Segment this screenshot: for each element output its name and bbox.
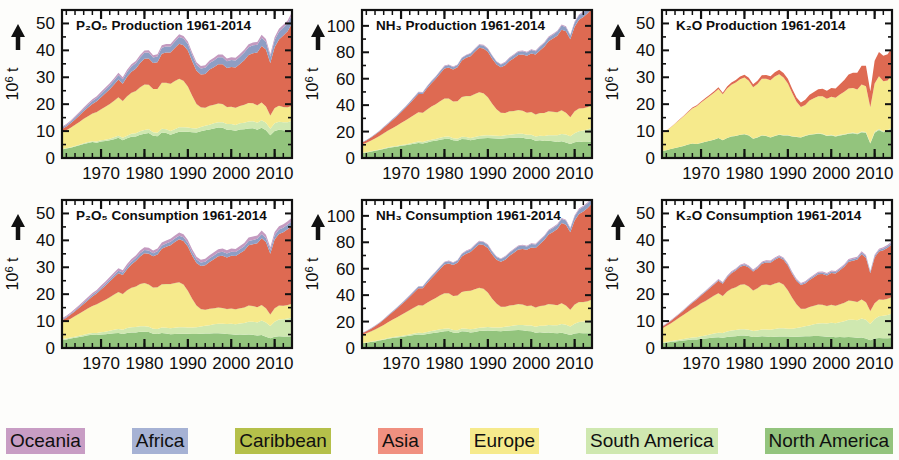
legend-item-north-america: North America — [765, 428, 893, 454]
legend-item-oceania: Oceania — [6, 428, 85, 454]
y-tick-label: 30 — [36, 258, 55, 277]
y-axis-arrow-icon — [11, 24, 25, 50]
y-tick-label: 0 — [346, 149, 355, 168]
y-tick-label: 60 — [336, 260, 355, 279]
chart-p2o5-production: 0102030405019701980199020002010P₂O₅ Prod… — [0, 0, 300, 190]
figure-container: 0102030405019701980199020002010P₂O₅ Prod… — [0, 0, 899, 460]
y-tick-label: 0 — [46, 149, 55, 168]
chart-title: P₂O₅ Consumption 1961-2014 — [76, 208, 267, 223]
y-tick-label: 40 — [336, 96, 355, 115]
chart-k2o-consumption: 0102030405019701980199020002010K₂O Consu… — [600, 190, 899, 380]
y-axis-label: 106 t — [303, 67, 321, 100]
chart-title: NH₃ Consumption 1961-2014 — [376, 208, 561, 223]
legend-item-asia: Asia — [378, 428, 423, 454]
y-tick-label: 20 — [36, 95, 55, 114]
y-tick-label: 10 — [636, 312, 655, 331]
y-tick-label: 40 — [336, 286, 355, 305]
x-tick-label: 1990 — [469, 354, 507, 373]
y-tick-label: 30 — [36, 68, 55, 87]
y-tick-label: 40 — [36, 231, 55, 250]
y-axis-label: 106 t — [3, 257, 21, 290]
panel-p2o5-consumption: 0102030405019701980199020002010P₂O₅ Cons… — [0, 190, 300, 380]
y-tick-label: 40 — [636, 41, 655, 60]
chart-p2o5-consumption: 0102030405019701980199020002010P₂O₅ Cons… — [0, 190, 300, 380]
y-tick-label: 30 — [636, 258, 655, 277]
y-axis-label: 106 t — [603, 67, 621, 100]
panel-k2o-production: 0102030405019701980199020002010K₂O Produ… — [600, 0, 899, 190]
y-axis-arrow-icon — [11, 214, 25, 240]
legend-item-south-america: South America — [586, 428, 718, 454]
y-tick-label: 0 — [646, 149, 655, 168]
y-tick-label: 20 — [636, 95, 655, 114]
x-axis-label: Year — [760, 378, 795, 380]
y-axis-arrow-icon — [611, 24, 625, 50]
y-tick-label: 100 — [327, 17, 355, 36]
y-axis-label: 106 t — [3, 67, 21, 100]
y-tick-label: 50 — [636, 14, 655, 33]
x-tick-label: 2000 — [812, 164, 850, 183]
y-tick-label: 10 — [36, 122, 55, 141]
x-tick-label: 2000 — [212, 354, 250, 373]
chart-k2o-production: 0102030405019701980199020002010K₂O Produ… — [600, 0, 899, 190]
y-axis-arrow-icon — [611, 214, 625, 240]
chart-title: P₂O₅ Production 1961-2014 — [76, 18, 251, 33]
y-tick-label: 0 — [46, 339, 55, 358]
x-tick-label: 2010 — [856, 354, 894, 373]
x-tick-label: 2000 — [212, 164, 250, 183]
x-axis-label: Year — [160, 378, 195, 380]
y-tick-label: 100 — [327, 207, 355, 226]
panel-nh3-production: 02040608010019701980199020002010NH₃ Prod… — [300, 0, 600, 190]
x-tick-label: 1980 — [726, 354, 764, 373]
chart-title: K₂O Consumption 1961-2014 — [676, 208, 862, 223]
legend-item-europe: Europe — [470, 428, 539, 454]
x-tick-label: 1970 — [682, 164, 720, 183]
chart-title: NH₃ Production 1961-2014 — [376, 18, 546, 33]
x-axis-label: Year — [460, 378, 495, 380]
x-tick-label: 2010 — [256, 354, 294, 373]
x-tick-label: 1970 — [682, 354, 720, 373]
x-tick-label: 1970 — [82, 354, 120, 373]
x-tick-label: 1970 — [382, 354, 420, 373]
y-tick-label: 50 — [36, 204, 55, 223]
x-tick-label: 1990 — [169, 354, 207, 373]
legend-item-africa: Africa — [132, 428, 189, 454]
legend: OceaniaAfricaCaribbeanAsiaEuropeSouth Am… — [0, 424, 899, 458]
y-tick-label: 10 — [36, 312, 55, 331]
legend-item-caribbean: Caribbean — [235, 428, 331, 454]
y-axis-arrow-icon — [311, 24, 325, 50]
chart-title: K₂O Production 1961-2014 — [676, 18, 846, 33]
x-tick-label: 2010 — [556, 164, 594, 183]
y-tick-label: 20 — [636, 285, 655, 304]
x-tick-label: 2000 — [512, 164, 550, 183]
y-tick-label: 20 — [336, 123, 355, 142]
y-tick-label: 0 — [646, 339, 655, 358]
x-tick-label: 1990 — [769, 164, 807, 183]
x-tick-label: 1990 — [769, 354, 807, 373]
x-tick-label: 2010 — [556, 354, 594, 373]
chart-nh3-production: 02040608010019701980199020002010NH₃ Prod… — [300, 0, 600, 190]
x-tick-label: 1990 — [469, 164, 507, 183]
y-tick-label: 50 — [36, 14, 55, 33]
x-tick-label: 1980 — [126, 354, 164, 373]
x-tick-label: 1980 — [726, 164, 764, 183]
chart-nh3-consumption: 02040608010019701980199020002010NH₃ Cons… — [300, 190, 600, 380]
y-tick-label: 20 — [336, 313, 355, 332]
x-tick-label: 1970 — [82, 164, 120, 183]
y-tick-label: 40 — [36, 41, 55, 60]
y-axis-arrow-icon — [311, 214, 325, 240]
panel-p2o5-production: 0102030405019701980199020002010P₂O₅ Prod… — [0, 0, 300, 190]
x-tick-label: 2000 — [812, 354, 850, 373]
x-tick-label: 1970 — [382, 164, 420, 183]
x-tick-label: 2010 — [256, 164, 294, 183]
y-tick-label: 20 — [36, 285, 55, 304]
x-tick-label: 2000 — [512, 354, 550, 373]
x-tick-label: 2010 — [856, 164, 894, 183]
x-tick-label: 1990 — [169, 164, 207, 183]
x-tick-label: 1980 — [426, 164, 464, 183]
panel-nh3-consumption: 02040608010019701980199020002010NH₃ Cons… — [300, 190, 600, 380]
panel-k2o-consumption: 0102030405019701980199020002010K₂O Consu… — [600, 190, 899, 380]
y-axis-label: 106 t — [603, 257, 621, 290]
x-tick-label: 1980 — [426, 354, 464, 373]
y-axis-label: 106 t — [303, 257, 321, 290]
y-tick-label: 10 — [636, 122, 655, 141]
